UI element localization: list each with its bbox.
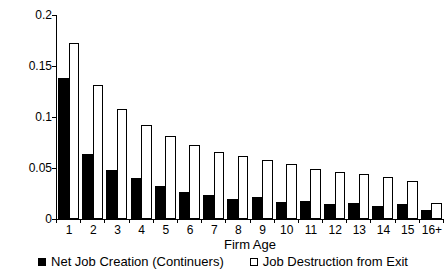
x-axis-tick-label: 5 bbox=[154, 224, 178, 236]
bar-job-destruction-age-8 bbox=[238, 156, 249, 219]
legend-swatch-filled-icon bbox=[38, 258, 46, 266]
x-axis-tick-label: 9 bbox=[251, 224, 275, 236]
bar-job-destruction-age-12 bbox=[335, 172, 346, 219]
bar-net-job-creation-age-8 bbox=[227, 199, 238, 219]
bar-net-job-creation-age-1 bbox=[58, 78, 69, 219]
x-axis-tick-label: 1 bbox=[57, 224, 81, 236]
x-axis-tick-label: 8 bbox=[226, 224, 250, 236]
bar-job-destruction-age-4 bbox=[141, 125, 152, 219]
y-axis-tick-label: 0.1 bbox=[14, 111, 52, 123]
legend: Net Job Creation (Continuers) Job Destru… bbox=[0, 255, 446, 268]
x-axis-tick bbox=[370, 220, 371, 223]
bar-job-destruction-age-10 bbox=[286, 164, 297, 219]
x-axis-title: Firm Age bbox=[56, 238, 444, 251]
x-axis-tick-label: 3 bbox=[105, 224, 129, 236]
bar-net-job-creation-age-2 bbox=[82, 154, 93, 219]
x-axis-tick-label: 7 bbox=[202, 224, 226, 236]
y-axis-tick bbox=[52, 117, 56, 118]
y-axis-tick-label: 0.2 bbox=[14, 9, 52, 21]
x-axis-tick-label: 15 bbox=[396, 224, 420, 236]
bar-net-job-creation-age-4 bbox=[131, 178, 142, 219]
x-axis-tick bbox=[346, 220, 347, 223]
x-axis-tick bbox=[395, 220, 396, 223]
x-axis-tick bbox=[322, 220, 323, 223]
x-axis-tick-label: 14 bbox=[371, 224, 395, 236]
x-axis-tick bbox=[250, 220, 251, 223]
legend-swatch-open-icon bbox=[250, 258, 258, 266]
x-axis-tick bbox=[153, 220, 154, 223]
x-axis-tick-label: 10 bbox=[275, 224, 299, 236]
y-axis-tick bbox=[52, 66, 56, 67]
bar-job-destruction-age-5 bbox=[165, 136, 176, 219]
y-axis-tick-label: 0 bbox=[14, 213, 52, 225]
legend-label-job-destruction: Job Destruction from Exit bbox=[263, 255, 408, 268]
x-axis-tick bbox=[56, 220, 57, 223]
bar-net-job-creation-age-10 bbox=[276, 202, 287, 219]
bar-job-destruction-age-6 bbox=[189, 145, 200, 219]
bar-job-destruction-age-9 bbox=[262, 160, 273, 219]
bar-job-destruction-age-14 bbox=[383, 177, 394, 219]
x-axis-tick bbox=[129, 220, 130, 223]
x-axis-tick bbox=[274, 220, 275, 223]
legend-item-net-job-creation: Net Job Creation (Continuers) bbox=[38, 255, 224, 268]
x-axis-tick bbox=[419, 220, 420, 223]
bar-net-job-creation-age-16+ bbox=[421, 210, 432, 219]
bar-job-destruction-age-1 bbox=[69, 43, 80, 219]
legend-label-net-job-creation: Net Job Creation (Continuers) bbox=[51, 255, 224, 268]
x-axis-tick bbox=[177, 220, 178, 223]
bar-net-job-creation-age-11 bbox=[300, 201, 311, 219]
x-axis-tick bbox=[298, 220, 299, 223]
bar-chart-figure: Firm Age Net Job Creation (Continuers) J… bbox=[0, 0, 446, 278]
x-axis-tick-label: 12 bbox=[323, 224, 347, 236]
bar-job-destruction-age-2 bbox=[93, 85, 104, 219]
bar-net-job-creation-age-6 bbox=[179, 192, 190, 219]
bar-job-destruction-age-11 bbox=[310, 169, 321, 219]
bar-net-job-creation-age-14 bbox=[372, 206, 383, 219]
legend-item-job-destruction: Job Destruction from Exit bbox=[250, 255, 408, 268]
bar-net-job-creation-age-7 bbox=[203, 195, 214, 219]
bar-job-destruction-age-15 bbox=[407, 181, 418, 219]
x-axis-tick bbox=[225, 220, 226, 223]
x-axis-tick-label: 2 bbox=[81, 224, 105, 236]
x-axis-tick-label: 16+ bbox=[420, 224, 444, 236]
bar-net-job-creation-age-12 bbox=[324, 204, 335, 219]
x-axis-tick-label: 6 bbox=[178, 224, 202, 236]
y-axis-tick bbox=[52, 168, 56, 169]
y-axis-tick-label: 0.15 bbox=[14, 60, 52, 72]
bar-job-destruction-age-3 bbox=[117, 109, 128, 219]
x-axis-tick-label: 4 bbox=[130, 224, 154, 236]
bar-job-destruction-age-16+ bbox=[431, 203, 442, 219]
y-axis-tick-label: 0.05 bbox=[14, 162, 52, 174]
x-axis-tick bbox=[80, 220, 81, 223]
x-axis-tick-label: 11 bbox=[299, 224, 323, 236]
y-axis-tick bbox=[52, 15, 56, 16]
x-axis-tick-label: 13 bbox=[347, 224, 371, 236]
bar-job-destruction-age-13 bbox=[359, 174, 370, 219]
plot-area bbox=[56, 15, 444, 220]
x-axis-tick bbox=[104, 220, 105, 223]
bar-job-destruction-age-7 bbox=[214, 152, 225, 219]
x-axis-tick bbox=[443, 220, 444, 223]
bar-net-job-creation-age-9 bbox=[252, 197, 263, 219]
bar-net-job-creation-age-13 bbox=[348, 203, 359, 219]
x-axis-tick bbox=[201, 220, 202, 223]
bar-net-job-creation-age-15 bbox=[397, 204, 408, 219]
bar-net-job-creation-age-5 bbox=[155, 186, 166, 219]
bar-net-job-creation-age-3 bbox=[106, 170, 117, 219]
